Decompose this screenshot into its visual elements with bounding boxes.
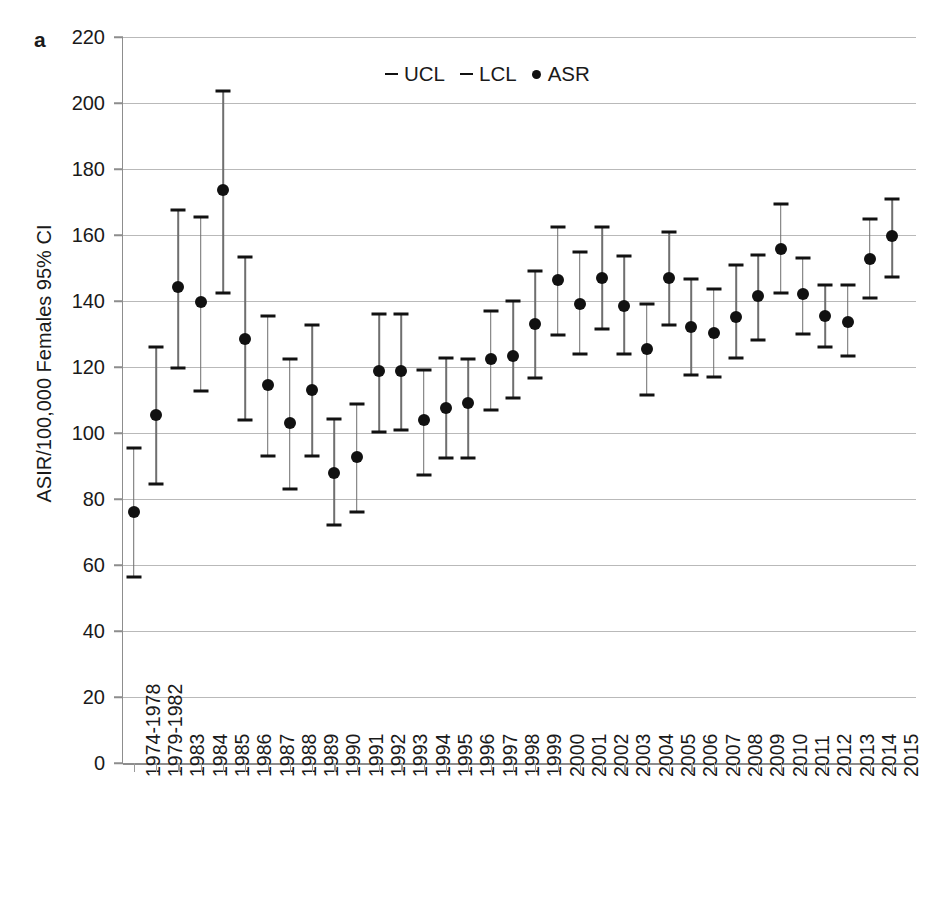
ucl-cap xyxy=(126,446,141,449)
asr-marker xyxy=(641,343,653,355)
asr-marker xyxy=(351,451,363,463)
asr-marker xyxy=(797,288,809,300)
asr-marker xyxy=(328,467,340,479)
ucl-cap xyxy=(505,300,520,303)
ucl-cap xyxy=(372,312,387,315)
lcl-cap xyxy=(438,457,453,460)
x-tick-mark xyxy=(781,763,782,772)
ucl-cap xyxy=(662,230,677,233)
ucl-cap xyxy=(461,357,476,360)
asr-marker xyxy=(864,253,876,265)
plot-area: 020406080100120140160180200220 1974-1978… xyxy=(122,37,916,763)
asr-marker xyxy=(418,414,430,426)
x-tick-mark xyxy=(201,763,202,772)
lcl-cap xyxy=(126,576,141,579)
asr-marker xyxy=(239,333,251,345)
y-tick-mark xyxy=(114,498,123,500)
lcl-cap xyxy=(728,357,743,360)
x-tick-mark xyxy=(624,763,625,772)
ucl-cap xyxy=(260,314,275,317)
lcl-cap xyxy=(505,397,520,400)
x-tick-mark xyxy=(535,763,536,772)
asr-marker xyxy=(284,417,296,429)
ucl-cap xyxy=(595,225,610,228)
ucl-cap xyxy=(617,255,632,258)
asr-marker xyxy=(262,379,274,391)
lcl-cap xyxy=(662,324,677,327)
lcl-cap xyxy=(862,296,877,299)
x-tick-mark xyxy=(245,763,246,772)
ucl-cap xyxy=(349,402,364,405)
x-tick-mark xyxy=(446,763,447,772)
ucl-cap xyxy=(394,312,409,315)
x-tick-mark xyxy=(714,763,715,772)
figure-panel-a: a ASIR/100,000 Females 95% CI UCLLCLASR … xyxy=(0,0,946,909)
asr-marker xyxy=(373,365,385,377)
ucl-cap xyxy=(572,250,587,253)
y-tick-label: 40 xyxy=(43,620,105,643)
ucl-cap xyxy=(282,358,297,361)
lcl-cap xyxy=(282,487,297,490)
asr-marker xyxy=(306,384,318,396)
y-tick-label: 160 xyxy=(43,224,105,247)
asr-marker xyxy=(195,296,207,308)
lcl-cap xyxy=(238,418,253,421)
x-tick-mark xyxy=(468,763,469,772)
asr-marker xyxy=(886,230,898,242)
asr-marker xyxy=(485,353,497,365)
ucl-cap xyxy=(795,257,810,260)
x-tick-mark xyxy=(669,763,670,772)
x-tick-mark xyxy=(602,763,603,772)
y-tick-mark xyxy=(114,432,123,434)
x-tick-mark xyxy=(580,763,581,772)
lcl-cap xyxy=(840,355,855,358)
asr-marker xyxy=(552,274,564,286)
lcl-cap xyxy=(639,393,654,396)
y-tick-label: 180 xyxy=(43,158,105,181)
lcl-cap xyxy=(795,333,810,336)
ucl-cap xyxy=(840,283,855,286)
ucl-cap xyxy=(438,357,453,360)
x-tick-mark xyxy=(892,763,893,772)
lcl-cap xyxy=(684,373,699,376)
asr-marker xyxy=(574,298,586,310)
x-tick-mark xyxy=(156,763,157,772)
x-tick-mark xyxy=(268,763,269,772)
y-tick-label: 80 xyxy=(43,488,105,511)
y-tick-mark xyxy=(114,630,123,632)
lcl-cap xyxy=(550,333,565,336)
ucl-cap xyxy=(751,253,766,256)
ucl-cap xyxy=(550,226,565,229)
asr-marker xyxy=(217,184,229,196)
lcl-cap xyxy=(372,430,387,433)
lcl-cap xyxy=(818,345,833,348)
asr-marker xyxy=(775,243,787,255)
lcl-cap xyxy=(483,408,498,411)
lcl-cap xyxy=(149,483,164,486)
lcl-cap xyxy=(260,455,275,458)
ucl-cap xyxy=(149,345,164,348)
lcl-cap xyxy=(773,292,788,295)
y-tick-label: 0 xyxy=(43,752,105,775)
ucl-cap xyxy=(818,283,833,286)
lcl-cap xyxy=(617,352,632,355)
x-tick-mark xyxy=(558,763,559,772)
asr-marker xyxy=(462,397,474,409)
x-tick-mark xyxy=(134,763,135,772)
x-tick-mark xyxy=(870,763,871,772)
x-tick-mark xyxy=(491,763,492,772)
lcl-cap xyxy=(327,524,342,527)
y-tick-mark xyxy=(114,564,123,566)
lcl-cap xyxy=(171,367,186,370)
y-tick-label: 140 xyxy=(43,290,105,313)
ucl-cap xyxy=(728,263,743,266)
asr-marker xyxy=(663,272,675,284)
ucl-cap xyxy=(885,198,900,201)
lcl-cap xyxy=(215,291,230,294)
x-tick-mark xyxy=(803,763,804,772)
x-tick-mark xyxy=(312,763,313,772)
lcl-cap xyxy=(595,327,610,330)
x-tick-mark xyxy=(379,763,380,772)
ucl-cap xyxy=(171,208,186,211)
ucl-cap xyxy=(773,202,788,205)
